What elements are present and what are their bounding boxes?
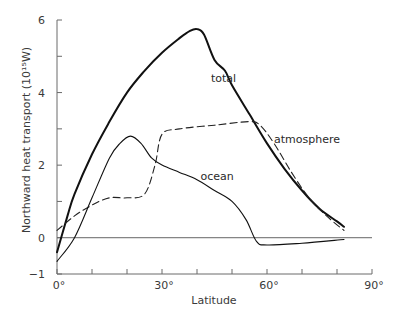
ocean-line [57, 136, 344, 261]
y-tick-label: 2 [38, 159, 45, 172]
x-axis-title: Latitude [191, 294, 237, 307]
ocean-label: ocean [201, 170, 234, 183]
axes: 6420−10°30°60°90° [29, 14, 384, 292]
y-axis-title: Northward heat transport (10¹⁵W) [20, 47, 33, 233]
heat-transport-chart: 6420−10°30°60°90° totalatmosphereocean L… [0, 0, 398, 323]
y-tick-label: 4 [38, 87, 45, 100]
total-label: total [211, 72, 236, 85]
x-tick-label: 60° [259, 279, 279, 292]
x-tick-label: 90° [364, 279, 384, 292]
atmosphere-label: atmosphere [274, 133, 340, 146]
x-tick-label: 30° [154, 279, 174, 292]
series-labels: totalatmosphereocean [201, 72, 341, 183]
y-tick-label: 6 [38, 14, 45, 27]
x-tick-label: 0° [53, 279, 66, 292]
y-tick-label: 0 [38, 232, 45, 245]
y-tick-label: −1 [29, 268, 45, 281]
